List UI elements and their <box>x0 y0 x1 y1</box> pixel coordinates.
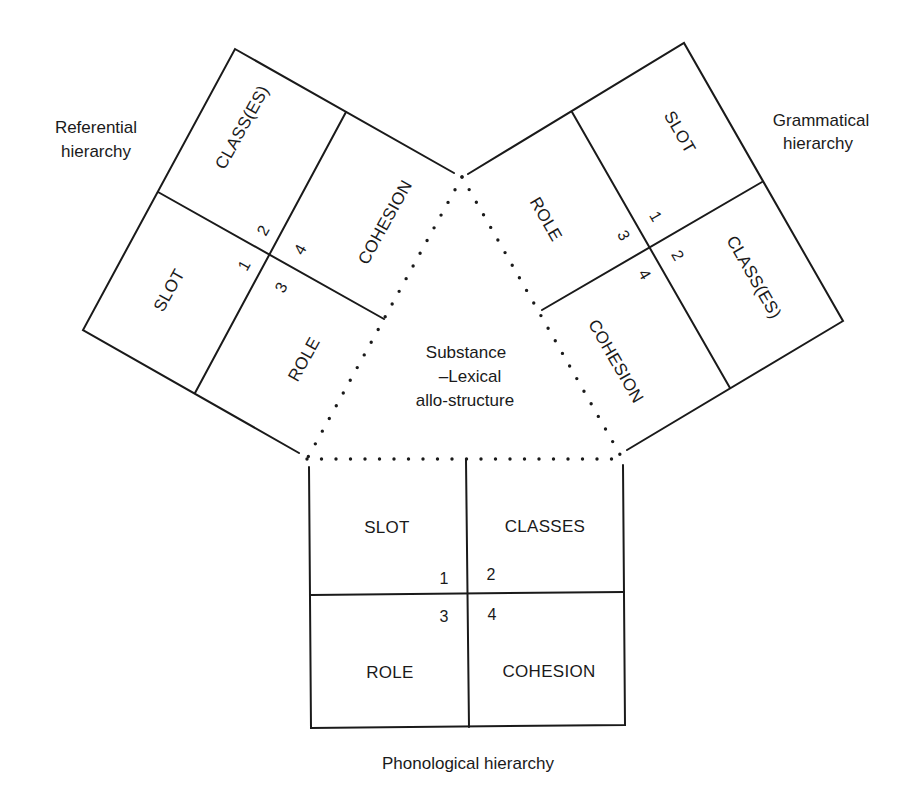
referential-frame <box>83 49 454 453</box>
referential-number-4: 4 <box>291 241 310 257</box>
phonological-cell-classes: CLASSES <box>505 517 586 536</box>
referential-title-line-2: hierarchy <box>61 142 131 161</box>
center-label-line-3: allo-structure <box>416 391 514 410</box>
grammatical-number-3: 3 <box>614 227 633 243</box>
phonological-cell-slot: SLOT <box>364 518 410 537</box>
phonological-number-2: 2 <box>487 566 496 583</box>
center-label-line-2: –Lexical <box>439 367 501 386</box>
referential-divider-horizontal <box>158 192 384 319</box>
grammatical-title-line-1: Grammatical <box>773 111 869 130</box>
phonological-title: Phonological hierarchy <box>382 754 554 773</box>
phonological-number-1: 1 <box>440 570 449 587</box>
referential-cell-role: ROLE <box>284 334 324 385</box>
phonological-hierarchy: SLOT CLASSES ROLE COHESION 1 2 3 4 Phono… <box>309 460 625 773</box>
grammatical-cell-slot: SLOT <box>660 108 699 157</box>
grammatical-number-4: 4 <box>635 266 654 282</box>
phonological-cell-role: ROLE <box>366 663 414 682</box>
phonological-number-4: 4 <box>488 606 497 623</box>
grammatical-hierarchy: SLOT ROLE CLASS(ES) COHESION 1 2 3 4 Gra… <box>468 43 869 450</box>
phonological-number-3: 3 <box>440 608 449 625</box>
grammatical-frame <box>468 43 843 450</box>
grammatical-number-2: 2 <box>668 247 687 263</box>
phonological-cell-cohesion: COHESION <box>502 662 595 681</box>
grammatical-divider-vertical <box>572 112 730 388</box>
referential-number-2: 2 <box>254 222 273 238</box>
referential-title-line-1: Referential <box>55 118 137 137</box>
center-label: Substance –Lexical allo-structure <box>416 343 514 410</box>
grammatical-number-1: 1 <box>646 208 665 224</box>
substance-triangle <box>307 177 622 459</box>
hierarchy-diagram: Substance –Lexical allo-structure CLASS(… <box>0 0 923 790</box>
center-label-line-1: Substance <box>426 343 506 362</box>
referential-number-3: 3 <box>272 279 291 295</box>
grammatical-cell-classes: CLASS(ES) <box>722 232 785 322</box>
referential-cell-classes: CLASS(ES) <box>211 82 272 172</box>
grammatical-cell-role: ROLE <box>526 194 566 245</box>
grammatical-cell-cohesion: COHESION <box>584 316 647 406</box>
referential-cell-cohesion: COHESION <box>354 177 416 268</box>
referential-cell-slot: SLOT <box>150 266 189 315</box>
referential-hierarchy: CLASS(ES) COHESION SLOT ROLE 1 2 3 4 Ref… <box>55 49 454 453</box>
grammatical-title-line-2: hierarchy <box>783 134 853 153</box>
referential-number-1: 1 <box>235 257 254 273</box>
